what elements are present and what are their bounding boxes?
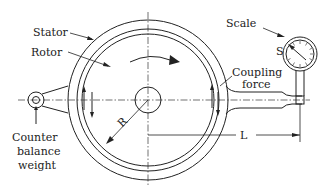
scale-label: Scale [226,17,256,30]
rotation-arrow-icon [130,55,180,65]
counterweight-label-1: Counter [12,131,58,144]
length-dimension: L [148,104,300,142]
radius-dimension: R [106,100,148,144]
counterweight-arm [28,86,68,124]
scale-symbol: S [276,45,284,58]
counterweight-label-2: balance [17,145,60,158]
scale-gauge [283,37,317,96]
coupling-force-label-2: force [242,78,271,91]
gauge-tick-marks [288,41,313,67]
length-label: L [240,129,248,142]
stator-label: Stator [33,26,69,39]
rotor-label: Rotor [31,46,63,59]
counterweight-label-3: weight [18,159,57,172]
radius-label: R [115,114,131,130]
dynamometer-diagram: R [0,0,322,193]
